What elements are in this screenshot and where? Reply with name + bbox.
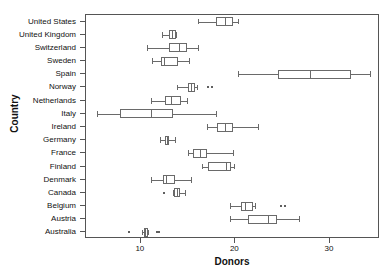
y-tick-label-ireland: Ireland [0, 122, 76, 131]
y-tick-label-united-states: United States [0, 16, 76, 25]
x-tick-mark [329, 238, 330, 243]
y-tick-label-sweden: Sweden [0, 56, 76, 65]
boxplot-figure: Country Donors United StatesUnited Kingd… [0, 0, 386, 274]
y-tick-label-belgium: Belgium [0, 201, 76, 210]
y-tick-label-norway: Norway [0, 82, 76, 91]
y-tick-label-denmark: Denmark [0, 174, 76, 183]
median-line [145, 228, 146, 237]
outlier-point [128, 231, 130, 233]
x-tick-mark [140, 238, 141, 243]
y-tick-label-canada: Canada [0, 187, 76, 196]
y-tick-label-germany: Germany [0, 135, 76, 144]
whisker-cap-high [148, 230, 149, 236]
box-australia [86, 15, 378, 237]
y-tick-label-austria: Austria [0, 214, 76, 223]
x-axis-title: Donors [85, 256, 379, 267]
plot-area [85, 14, 379, 238]
x-tick-label-20: 20 [230, 244, 239, 253]
x-tick-mark [234, 238, 235, 243]
whisker-cap-low [142, 230, 143, 236]
y-tick-label-finland: Finland [0, 161, 76, 170]
y-tick-label-italy: Italy [0, 108, 76, 117]
x-tick-label-10: 10 [135, 244, 144, 253]
y-tick-label-switzerland: Switzerland [0, 42, 76, 51]
y-tick-label-netherlands: Netherlands [0, 95, 76, 104]
y-tick-label-spain: Spain [0, 69, 76, 78]
y-tick-label-france: France [0, 148, 76, 157]
y-tick-label-australia: Australia [0, 227, 76, 236]
y-tick-label-united-kingdom: United Kingdom [0, 29, 76, 38]
x-tick-label-30: 30 [324, 244, 333, 253]
outlier-point [158, 231, 160, 233]
